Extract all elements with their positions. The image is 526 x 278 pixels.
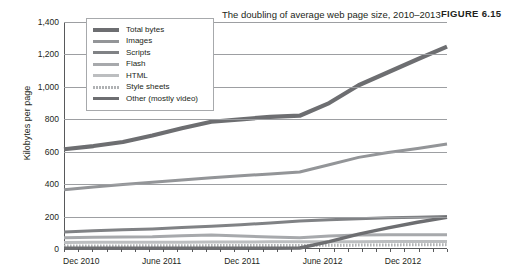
x-axis-tick-mark bbox=[319, 249, 320, 252]
series-line bbox=[64, 235, 447, 238]
x-axis-tick-mark bbox=[390, 249, 391, 252]
legend-item: Other (mostly video) bbox=[93, 93, 207, 105]
x-axis-tick-mark bbox=[177, 249, 178, 252]
x-axis-tick-label: Dec 2012 bbox=[385, 256, 421, 266]
x-axis-tick-mark bbox=[163, 249, 164, 252]
y-axis-tick-label: 1,400 bbox=[38, 17, 59, 27]
y-axis-tick-label: 400 bbox=[45, 179, 59, 189]
x-axis-tick-mark bbox=[220, 249, 221, 252]
x-axis-tick-mark bbox=[135, 249, 136, 252]
x-axis-tick-mark bbox=[263, 249, 264, 252]
figure-container: The doubling of average web page size, 2… bbox=[0, 0, 526, 278]
x-axis-tick-label: Dec 2011 bbox=[224, 256, 260, 266]
x-axis-tick-mark bbox=[192, 249, 193, 252]
legend-label: HTML bbox=[126, 72, 148, 80]
x-axis-tick-label: June 2011 bbox=[142, 256, 181, 266]
legend-label: Flash bbox=[126, 60, 146, 68]
y-axis-tick-label: 600 bbox=[45, 147, 59, 157]
legend-label: Style sheets bbox=[126, 83, 170, 91]
x-axis-tick-mark bbox=[362, 249, 363, 252]
x-axis-tick-mark bbox=[348, 249, 349, 252]
legend-swatch-icon bbox=[93, 74, 119, 77]
legend-label: Scripts bbox=[126, 49, 150, 57]
legend-item: Images bbox=[93, 36, 207, 48]
x-axis-tick-mark bbox=[107, 249, 108, 252]
x-axis-tick-mark bbox=[305, 249, 306, 252]
gridline bbox=[64, 152, 447, 153]
x-axis-tick-mark bbox=[234, 249, 235, 252]
chart-title: The doubling of average web page size, 2… bbox=[222, 9, 441, 20]
y-axis-tick-label: 1,200 bbox=[38, 49, 59, 59]
x-axis-tick-mark bbox=[149, 249, 150, 252]
x-axis-tick-mark bbox=[248, 249, 249, 252]
x-axis-tick-mark bbox=[433, 249, 434, 252]
y-axis-tick-label: 0 bbox=[54, 244, 59, 254]
series-line bbox=[64, 245, 447, 246]
legend-swatch-icon bbox=[93, 63, 119, 66]
x-axis-tick-mark bbox=[291, 249, 292, 252]
series-line bbox=[64, 241, 447, 242]
x-axis-tick-mark bbox=[92, 249, 93, 252]
gridline bbox=[64, 119, 447, 120]
legend-label: Total bytes bbox=[126, 26, 164, 34]
x-axis-tick-mark bbox=[64, 249, 65, 252]
legend-item: Style sheets bbox=[93, 82, 207, 94]
gridline bbox=[64, 217, 447, 218]
legend-swatch-icon bbox=[93, 28, 119, 32]
x-axis-tick-label: June 2012 bbox=[303, 256, 343, 266]
legend-item: Scripts bbox=[93, 47, 207, 59]
legend-swatch-icon bbox=[93, 40, 119, 43]
legend-label: Other (mostly video) bbox=[126, 95, 198, 103]
legend-swatch-icon bbox=[93, 86, 119, 89]
figure-number-label: FIGURE 6.15 bbox=[441, 8, 501, 19]
x-axis-tick-mark bbox=[78, 249, 79, 252]
x-axis-tick-mark bbox=[376, 249, 377, 252]
y-axis-tick-label: 1,000 bbox=[38, 82, 59, 92]
x-axis-tick-mark bbox=[404, 249, 405, 252]
x-axis-tick-mark bbox=[277, 249, 278, 252]
legend-swatch-icon bbox=[93, 51, 119, 54]
legend-item: HTML bbox=[93, 70, 207, 82]
legend-label: Images bbox=[126, 37, 152, 45]
legend-item: Total bytes bbox=[93, 24, 207, 36]
gridline bbox=[64, 184, 447, 185]
x-axis-tick-mark bbox=[419, 249, 420, 252]
x-axis-tick-label: Dec 2010 bbox=[63, 256, 99, 266]
y-axis-title: Kilobytes per page bbox=[22, 53, 32, 193]
y-axis-tick-label: 200 bbox=[45, 212, 59, 222]
x-axis-tick-mark bbox=[121, 249, 122, 252]
legend-item: Flash bbox=[93, 59, 207, 71]
chart-legend: Total bytesImagesScriptsFlashHTMLStyle s… bbox=[86, 18, 214, 111]
y-axis-tick-label: 800 bbox=[45, 114, 59, 124]
legend-swatch-icon bbox=[93, 97, 119, 100]
x-axis-tick-mark bbox=[447, 249, 448, 252]
series-line bbox=[64, 217, 447, 232]
x-axis-tick-mark bbox=[334, 249, 335, 252]
x-axis-tick-mark bbox=[206, 249, 207, 252]
